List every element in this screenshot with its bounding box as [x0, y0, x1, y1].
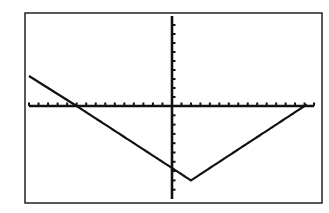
graph-plot: [0, 0, 329, 213]
screen-frame: [25, 13, 322, 203]
calculator-graph-screen: [0, 0, 329, 213]
